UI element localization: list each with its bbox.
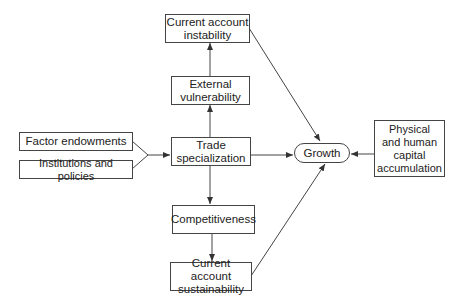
node-current-account-instability: Current account instability	[165, 14, 250, 43]
node-current-account-sustainability: Current account sustainability	[170, 262, 252, 291]
node-trade-specialization: Trade specialization	[171, 137, 251, 166]
node-growth: Growth	[294, 143, 350, 163]
node-institutions-and-policies: Institutions and policies	[19, 160, 133, 179]
node-capital-accumulation: Physical and human capital accumulation	[374, 120, 445, 177]
node-external-vulnerability: External vulnerability	[171, 76, 250, 105]
node-competitiveness: Competitiveness	[172, 205, 255, 234]
node-factor-endowments: Factor endowments	[19, 132, 133, 151]
